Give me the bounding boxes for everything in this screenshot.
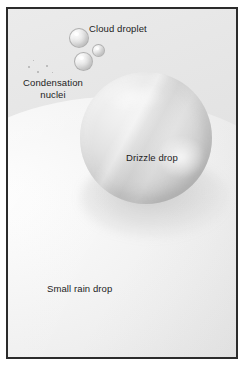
nucleus-3	[46, 65, 48, 67]
cloud-droplet-small-highlight	[96, 47, 99, 50]
cloud-droplet-medium	[74, 52, 93, 71]
cloud-droplet-large-highlight	[74, 32, 79, 36]
cloud-droplet-medium-highlight	[79, 56, 84, 60]
nucleus-2	[37, 71, 39, 73]
label-cloud-droplet: Cloud droplet	[89, 23, 147, 35]
nucleus-1	[28, 66, 30, 68]
cloud-droplet-large	[69, 28, 89, 48]
label-condensation-nuclei: Condensation nuclei	[16, 77, 90, 100]
nucleus-4	[33, 60, 34, 61]
label-small-rain-drop: Small rain drop	[47, 283, 112, 295]
illustration-frame: Cloud droplet Condensation nuclei Drizzl…	[6, 7, 238, 359]
drizzle-drop-top-gloss	[103, 83, 163, 111]
illustration-figure: Cloud droplet Condensation nuclei Drizzl…	[0, 0, 245, 367]
cloud-droplet-small	[92, 44, 105, 57]
nucleus-5	[52, 72, 53, 73]
label-drizzle-drop: Drizzle drop	[126, 152, 178, 164]
